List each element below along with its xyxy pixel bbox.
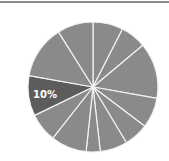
highlight-slice-label: 10%: [33, 89, 57, 100]
pie-slices: [28, 22, 158, 152]
pie-chart: 10%: [0, 0, 169, 161]
